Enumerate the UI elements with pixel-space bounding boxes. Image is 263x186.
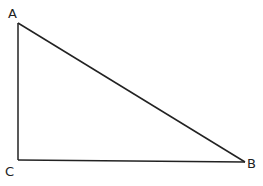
- vertex-label-c: C: [5, 164, 14, 179]
- edge-ab: [18, 23, 245, 162]
- vertex-label-a: A: [8, 6, 17, 21]
- edge-cb: [18, 160, 245, 162]
- vertex-label-b: B: [247, 156, 256, 171]
- triangle-diagram: A C B: [0, 0, 263, 186]
